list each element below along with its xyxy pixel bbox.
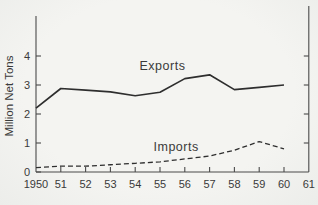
- y-tick-label: 3: [24, 79, 30, 91]
- x-tick-label: 53: [104, 178, 116, 190]
- x-tick-label: 54: [129, 178, 141, 190]
- exports-line: [36, 75, 284, 108]
- y-tick-label: 4: [24, 50, 30, 62]
- x-tick-label: 52: [79, 178, 91, 190]
- x-tick-label: 51: [55, 178, 67, 190]
- y-tick-label: 1: [24, 137, 30, 149]
- x-tick-label: 60: [278, 178, 290, 190]
- x-tick-label: 61: [303, 178, 315, 190]
- chart-canvas: 0123419505152535455565758596061Million N…: [0, 0, 318, 205]
- chart-figure: 0123419505152535455565758596061Million N…: [0, 0, 318, 205]
- y-tick-label: 0: [24, 166, 30, 178]
- x-tick-label: 55: [154, 178, 166, 190]
- x-tick-label: 58: [228, 178, 240, 190]
- x-tick-label: 1950: [24, 178, 48, 190]
- x-tick-label: 57: [203, 178, 215, 190]
- x-tick-label: 59: [253, 178, 265, 190]
- x-tick-label: 56: [179, 178, 191, 190]
- exports-label: Exports: [140, 59, 186, 73]
- y-axis-title: Million Net Tons: [3, 55, 15, 136]
- y-tick-label: 2: [24, 108, 30, 120]
- imports-label: Imports: [154, 140, 199, 154]
